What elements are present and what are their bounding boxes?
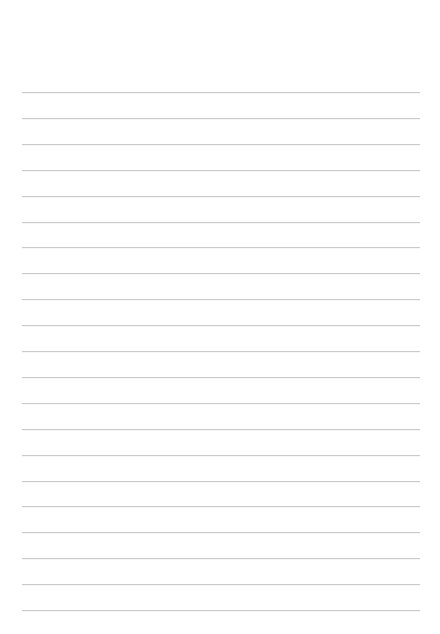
ruled-lines-container [0, 0, 440, 634]
writing-line-slot[interactable] [22, 277, 420, 303]
writing-line-slot[interactable] [22, 329, 420, 355]
writing-line-slot[interactable] [22, 148, 420, 174]
writing-line-slot[interactable] [22, 459, 420, 485]
writing-line-slot[interactable] [22, 562, 420, 588]
writing-line-slot[interactable] [22, 381, 420, 407]
writing-line-slot[interactable] [22, 70, 420, 96]
writing-line-slot[interactable] [22, 96, 420, 122]
writing-line-slot[interactable] [22, 433, 420, 459]
writing-line-slot[interactable] [22, 122, 420, 148]
lined-paper-page [0, 0, 440, 634]
writing-line-slot[interactable] [22, 536, 420, 562]
writing-line-slot[interactable] [22, 174, 420, 200]
writing-line-slot[interactable] [22, 407, 420, 433]
writing-line-slot[interactable] [22, 355, 420, 381]
writing-line-slot[interactable] [22, 485, 420, 511]
page-footer-margin [0, 611, 440, 634]
writing-line-slot[interactable] [22, 251, 420, 277]
writing-line-slot[interactable] [22, 226, 420, 252]
writing-line-slot[interactable] [22, 303, 420, 329]
writing-line-slot[interactable] [22, 200, 420, 226]
writing-line-slot[interactable] [22, 510, 420, 536]
